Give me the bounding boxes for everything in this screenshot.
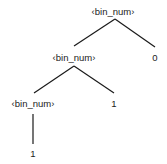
node-leaf-one-right: 1 <box>111 99 116 109</box>
edge-mid-to-one-right <box>74 66 114 93</box>
node-low-bin-num: ‹bin_num› <box>12 99 55 109</box>
tree-edges <box>0 0 167 164</box>
node-root-bin-num: ‹bin_num› <box>92 7 135 17</box>
edge-root-to-mid <box>74 19 115 46</box>
node-mid-bin-num: ‹bin_num› <box>53 53 96 63</box>
edge-root-to-zero <box>115 19 155 47</box>
node-leaf-zero: 0 <box>152 53 157 63</box>
node-leaf-one-bottom: 1 <box>30 149 35 159</box>
edge-mid-to-low <box>34 66 74 93</box>
